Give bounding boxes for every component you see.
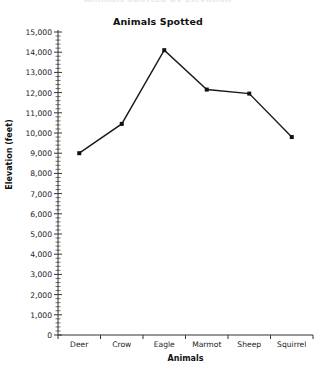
y-axis-tick-label: 6,000 <box>10 209 52 218</box>
x-axis-tick-label: Crow <box>112 340 131 349</box>
data-point-marker <box>162 48 166 52</box>
x-axis-tick-label: Marmot <box>192 340 221 349</box>
x-axis-tick-label: Deer <box>70 340 88 349</box>
y-axis-tick-label: 2,000 <box>10 290 52 299</box>
data-point-marker <box>77 151 81 155</box>
y-axis-tick-label: 15,000 <box>10 28 52 37</box>
data-point-marker <box>205 88 209 92</box>
x-axis-title: Animals <box>58 354 313 363</box>
data-point-marker <box>247 92 251 96</box>
y-axis-tick-label: 13,000 <box>10 68 52 77</box>
chart-figure: Animals Spotted by Elevation Animals Spo… <box>0 0 316 371</box>
y-axis-tick-label: 10,000 <box>10 129 52 138</box>
y-axis-tick-label: 8,000 <box>10 169 52 178</box>
y-axis-tick-label: 1,000 <box>10 310 52 319</box>
y-axis-tick-label: 9,000 <box>10 149 52 158</box>
y-axis-tick-label: 11,000 <box>10 108 52 117</box>
y-axis-tick-label: 14,000 <box>10 48 52 57</box>
y-axis-tick-label: 3,000 <box>10 270 52 279</box>
data-line-elevation <box>79 50 292 153</box>
y-axis-tick-labels: 01,0002,0003,0004,0005,0006,0007,0008,00… <box>0 0 52 371</box>
y-axis-tick-label: 4,000 <box>10 250 52 259</box>
y-axis-tick-label: 5,000 <box>10 230 52 239</box>
y-axis-tick-label: 12,000 <box>10 88 52 97</box>
x-axis-tick-label: Squirrel <box>277 340 306 349</box>
data-point-marker <box>120 122 124 126</box>
x-axis-tick-label: Sheep <box>237 340 261 349</box>
y-axis-tick-label: 7,000 <box>10 189 52 198</box>
data-point-marker <box>290 135 294 139</box>
x-axis-tick-label: Eagle <box>154 340 175 349</box>
y-axis-tick-label: 0 <box>10 331 52 340</box>
